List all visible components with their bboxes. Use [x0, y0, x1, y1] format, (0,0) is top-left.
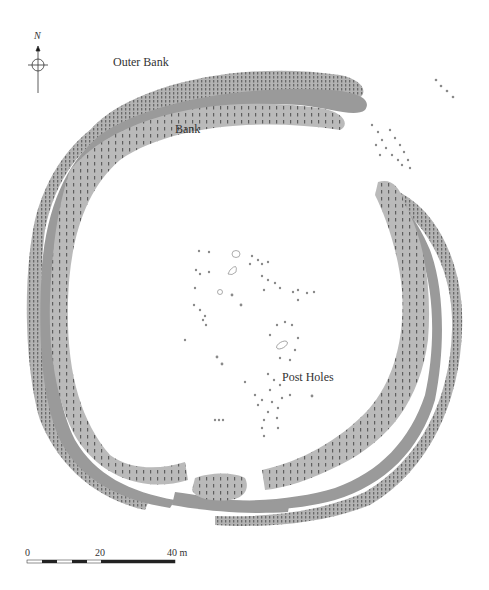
inner-bank [50, 104, 429, 501]
post-holes-label: Post Holes [282, 370, 334, 385]
scale-tick-0: 0 [25, 547, 30, 558]
scale-tick-20: 20 [95, 547, 105, 558]
north-arrow-icon [28, 46, 48, 93]
henge-map [0, 0, 489, 590]
scale-bar [27, 560, 175, 563]
entrance-post-holes [371, 79, 455, 170]
north-label: N [34, 30, 41, 41]
bank-label: Bank [175, 122, 200, 137]
outer-bank-label: Outer Bank [113, 55, 169, 70]
central-post-holes [184, 250, 315, 437]
scale-tick-40: 40 m [167, 547, 187, 558]
